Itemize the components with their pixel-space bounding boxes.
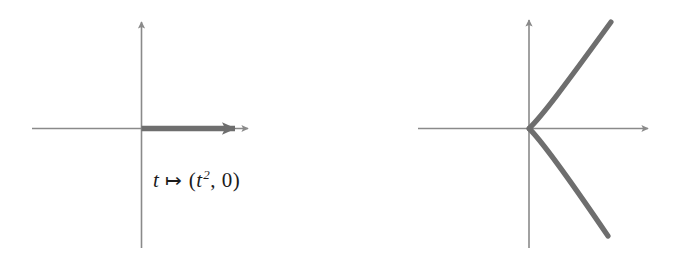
- caption-left-second: 0: [222, 168, 233, 192]
- caption-left: t↦(t2, 0): [153, 168, 240, 193]
- caption-left-close-paren: ): [233, 168, 241, 192]
- left-panel-graph: [0, 0, 337, 262]
- panel-left: t↦(t2, 0): [0, 0, 337, 262]
- caption-left-comma: ,: [210, 168, 222, 192]
- curve-cusp-lower-branch: [529, 129, 608, 237]
- right-panel-graph: [337, 0, 674, 262]
- caption-left-variable: t: [153, 168, 159, 192]
- curve-cusp-upper-branch: [529, 22, 611, 129]
- caption-left-first-base: t: [196, 168, 202, 192]
- maps-to-icon: ↦: [165, 169, 183, 191]
- parametrized-curves-figure: t↦(t2, 0) t↦(t2, t3): [0, 0, 674, 262]
- panel-right: t↦(t2, t3): [337, 0, 674, 262]
